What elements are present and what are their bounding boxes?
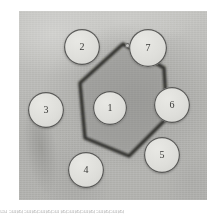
well-4-label: 4 — [84, 165, 89, 175]
well-2-label: 2 — [80, 42, 85, 52]
well-3[interactable]: 3 — [28, 92, 64, 128]
figure-caption-text: 图 细菌细菌细菌细菌细菌细菌细菌细菌 — [0, 210, 219, 214]
well-1-label: 1 — [108, 103, 113, 113]
well-4[interactable]: 4 — [68, 152, 104, 188]
well-7-notch-icon — [125, 43, 130, 48]
well-5[interactable]: 5 — [144, 137, 180, 173]
figure-root: 1 2 3 4 5 6 7 图 细菌细菌细菌细菌细菌细菌细菌细菌 — [0, 0, 219, 220]
well-7[interactable]: 7 — [129, 29, 167, 67]
well-6-label: 6 — [170, 100, 175, 110]
well-1[interactable]: 1 — [93, 91, 127, 125]
well-6[interactable]: 6 — [154, 87, 190, 123]
well-2[interactable]: 2 — [64, 29, 100, 65]
immunodiffusion-plate-panel: 1 2 3 4 5 6 7 — [19, 11, 207, 200]
well-5-label: 5 — [160, 150, 165, 160]
figure-caption-strip: 图 细菌细菌细菌细菌细菌细菌细菌细菌 — [0, 210, 219, 220]
well-7-label: 7 — [146, 43, 151, 53]
well-3-label: 3 — [44, 105, 49, 115]
